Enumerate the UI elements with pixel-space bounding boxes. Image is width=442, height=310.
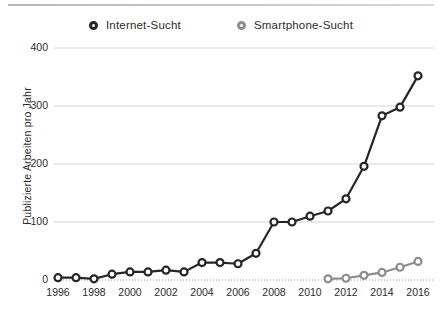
x-tick-label-2010: 2010 [290,286,330,298]
data-point [379,112,386,119]
data-point [199,259,206,266]
y-tick-label-0: 0 [14,273,48,285]
series-line-smartphone-sucht [328,261,418,278]
data-point [289,219,296,226]
data-point [235,260,242,267]
data-point [343,275,350,282]
data-point [415,258,422,265]
data-point [307,213,314,220]
data-point [109,271,116,278]
x-tick-label-2004: 2004 [182,286,222,298]
x-tick-label-2012: 2012 [326,286,366,298]
data-point [91,275,98,282]
x-tick-label-2000: 2000 [110,286,150,298]
x-tick-label-2014: 2014 [362,286,402,298]
data-point [145,268,152,275]
data-point [361,163,368,170]
chart-plot-area: 0100200300400199619982000200220042006200… [0,0,442,310]
x-tick-label-1996: 1996 [38,286,78,298]
y-tick-label-100: 100 [14,215,48,227]
data-point [397,104,404,111]
data-point [127,268,134,275]
data-point [343,195,350,202]
y-tick-label-400: 400 [14,41,48,53]
data-point [379,269,386,276]
x-tick-label-2016: 2016 [398,286,438,298]
y-tick-label-300: 300 [14,99,48,111]
x-tick-label-2006: 2006 [218,286,258,298]
data-point [397,264,404,271]
data-point [217,259,224,266]
data-point [361,272,368,279]
x-tick-label-1998: 1998 [74,286,114,298]
data-point [181,268,188,275]
data-point [325,275,332,282]
y-tick-label-200: 200 [14,157,48,169]
data-point [55,274,62,281]
data-point [325,207,332,214]
x-tick-label-2008: 2008 [254,286,294,298]
data-point [73,274,80,281]
data-point [271,219,278,226]
data-point [253,250,260,257]
x-tick-label-2002: 2002 [146,286,186,298]
data-point [415,72,422,79]
chart-canvas [0,0,442,310]
data-point [163,267,170,274]
